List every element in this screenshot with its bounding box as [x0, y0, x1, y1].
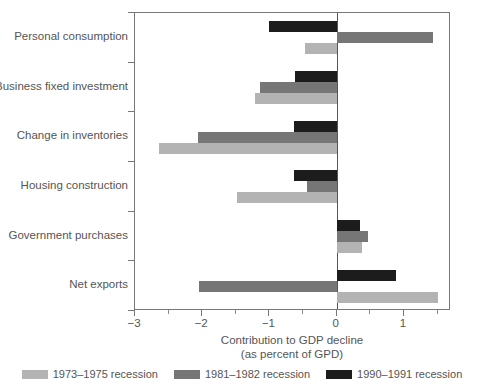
legend-item: 1990–1991 recession — [326, 368, 462, 380]
x-axis-minor-tick — [437, 310, 438, 314]
bar — [199, 281, 337, 292]
x-axis-minor-tick — [235, 310, 236, 314]
x-axis-title-line1: Contribution to GDP decline — [134, 334, 450, 346]
bar — [337, 32, 433, 43]
y-axis-category-label: Change in inventories — [0, 129, 128, 141]
x-axis-tick-label: 0 — [316, 317, 356, 329]
y-axis-tick — [128, 62, 135, 63]
x-axis-minor-tick — [369, 310, 370, 314]
legend-swatch — [22, 370, 48, 379]
y-axis-tick — [128, 211, 135, 212]
bar — [260, 82, 337, 93]
bar — [159, 143, 336, 154]
chart-figure: Personal consumptionBusiness fixed inves… — [0, 0, 484, 389]
legend-swatch — [174, 370, 200, 379]
x-axis-minor-tick — [302, 310, 303, 314]
y-axis-tick — [128, 12, 135, 13]
bar — [237, 192, 337, 203]
bar-group — [135, 112, 449, 162]
y-axis-category-label: Net exports — [0, 278, 128, 290]
bar — [337, 242, 363, 253]
bar — [305, 43, 337, 54]
legend-label: 1990–1991 recession — [357, 368, 462, 380]
bar — [198, 132, 337, 143]
y-axis-tick — [128, 260, 135, 261]
bar-group — [135, 212, 449, 262]
y-axis-tick — [128, 161, 135, 162]
legend-label: 1973–1975 recession — [53, 368, 158, 380]
x-axis-tick-label: 1 — [383, 317, 423, 329]
x-axis-tick — [403, 310, 404, 316]
bar — [255, 93, 337, 104]
x-axis-tick — [268, 310, 269, 316]
bar — [294, 170, 337, 181]
x-axis-tick-label: −1 — [248, 317, 288, 329]
bar — [337, 292, 438, 303]
legend-label: 1981–1982 recession — [205, 368, 310, 380]
chart-legend: 1973–1975 recession1981–1982 recession19… — [0, 368, 484, 380]
x-axis-tick — [336, 310, 337, 316]
bar — [337, 270, 396, 281]
legend-item: 1973–1975 recession — [22, 368, 158, 380]
bar — [269, 21, 337, 32]
x-axis-tick — [201, 310, 202, 316]
x-axis-tick-label: −3 — [114, 317, 154, 329]
bar — [337, 220, 361, 231]
x-axis-tick-label: −2 — [181, 317, 221, 329]
plot-area — [134, 12, 450, 310]
x-axis-tick — [134, 310, 135, 316]
y-axis-category-label: Business fixed investment — [0, 80, 128, 92]
legend-item: 1981–1982 recession — [174, 368, 310, 380]
bar-group — [135, 63, 449, 113]
y-axis-category-label: Personal consumption — [0, 30, 128, 42]
bar — [294, 121, 337, 132]
y-axis-category-label: Government purchases — [0, 229, 128, 241]
bar — [337, 231, 368, 242]
x-axis-minor-tick — [168, 310, 169, 314]
bar-group — [135, 261, 449, 311]
bar-group — [135, 13, 449, 63]
legend-swatch — [326, 370, 352, 379]
y-axis-tick — [128, 111, 135, 112]
y-axis-category-label: Housing construction — [0, 179, 128, 191]
x-axis-title-line2: (as percent of GPD) — [134, 348, 450, 360]
bar — [307, 181, 337, 192]
bar-group — [135, 162, 449, 212]
bar — [295, 71, 337, 82]
